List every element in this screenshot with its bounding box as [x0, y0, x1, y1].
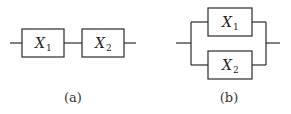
series-component-1-subscript: 1 — [46, 43, 52, 53]
parallel-component-2-label: X — [221, 57, 233, 73]
parallel-diagram: X 1 X 2 (b) — [176, 8, 280, 105]
parallel-caption: (b) — [220, 90, 238, 105]
series-caption: (a) — [64, 90, 82, 105]
series-component-2-label: X — [94, 35, 106, 51]
parallel-component-1-subscript: 1 — [233, 22, 239, 32]
parallel-component-2-subscript: 2 — [233, 65, 239, 75]
series-diagram: X 1 X 2 (a) — [10, 29, 136, 105]
series-component-1-label: X — [34, 35, 46, 51]
reliability-diagrams: X 1 X 2 (a) X 1 X 2 (b) — [0, 0, 291, 114]
parallel-component-1-label: X — [221, 14, 233, 30]
series-component-2-subscript: 2 — [106, 43, 112, 53]
